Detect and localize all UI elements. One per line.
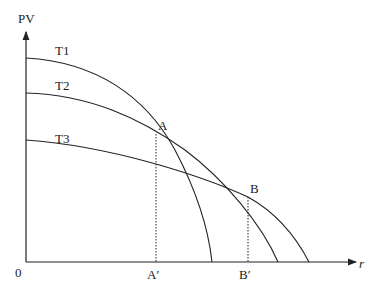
curve-label-t3: T3 — [55, 132, 69, 145]
origin-label: 0 — [15, 266, 22, 279]
curve-t2 — [26, 93, 278, 262]
point-label-a: A — [158, 119, 167, 132]
x-axis-label: r — [359, 257, 364, 270]
point-label-b: B — [250, 182, 259, 195]
projection-label-b: B′ — [239, 268, 251, 281]
curve-label-t2: T2 — [55, 79, 69, 92]
projection-label-a: A′ — [147, 268, 159, 281]
pv-diagram: PV r 0 T1 T2 T3 A B A′ B′ — [0, 0, 379, 299]
y-axis-label: PV — [18, 12, 35, 25]
curve-t3 — [26, 140, 309, 262]
curve-label-t1: T1 — [55, 44, 69, 57]
curve-t1 — [26, 58, 212, 262]
